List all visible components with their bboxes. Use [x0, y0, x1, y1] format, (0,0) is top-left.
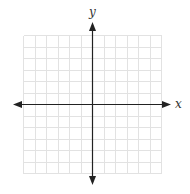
y-axis-top-arrow-icon — [89, 22, 96, 31]
y-axis — [89, 22, 96, 185]
y-axis-label: y — [88, 5, 96, 19]
coordinate-plane: y x — [0, 0, 190, 194]
x-axis-right-arrow-icon — [162, 101, 171, 108]
x-axis-label: x — [175, 97, 182, 111]
y-axis-bottom-arrow-icon — [89, 176, 96, 185]
x-axis-left-arrow-icon — [13, 101, 22, 108]
